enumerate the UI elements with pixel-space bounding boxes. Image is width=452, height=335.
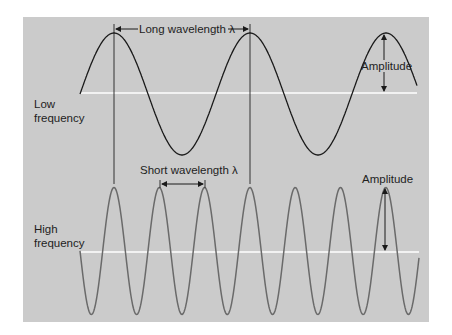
bottom-amplitude-label: Amplitude xyxy=(362,173,413,185)
long-wavelength-label: Long wavelength λ xyxy=(139,23,235,35)
low-frequency-wave xyxy=(80,33,417,155)
low-frequency-label-line2: frequency xyxy=(34,111,85,125)
short-wavelength-label: Short wavelength λ xyxy=(140,164,238,176)
low-frequency-label-line1: Low xyxy=(34,97,85,111)
high-frequency-wave xyxy=(80,188,419,315)
high-frequency-label-line1: High xyxy=(34,222,85,236)
wave-diagram: Long wavelength λ Amplitude Short wavele… xyxy=(0,0,452,335)
top-amplitude-label: Amplitude xyxy=(361,60,412,72)
high-frequency-label-line2: frequency xyxy=(34,236,85,250)
low-frequency-label: Low frequency xyxy=(34,97,85,125)
high-frequency-label: High frequency xyxy=(34,222,85,250)
